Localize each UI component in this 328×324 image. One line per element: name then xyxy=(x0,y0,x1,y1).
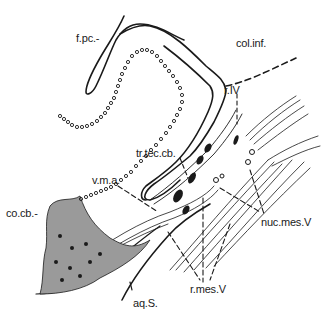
label-r-iv: r.IV xyxy=(224,84,240,96)
label-tr-tec-cb: tr.tec.cb. xyxy=(136,147,176,159)
label-nuc-mes-v: nuc.mes.V xyxy=(261,216,311,228)
label-r-mes-v: r.mes.V xyxy=(190,283,226,295)
anatomical-figure: f.pc.- col.inf. r.IV tr.tec.cb. v.m.a. c… xyxy=(0,0,328,324)
tectum-inner-contour xyxy=(142,46,213,200)
label-co-cb: co.cb.- xyxy=(6,207,38,219)
label-v-m-a: v.m.a. xyxy=(92,174,120,186)
label-aq-s: aq.S. xyxy=(133,297,158,309)
ependymal-dotted-line xyxy=(58,48,183,200)
colinf-boundary xyxy=(226,58,296,86)
label-f-pc: f.pc.- xyxy=(76,32,99,44)
brain-section-drawing xyxy=(0,0,328,324)
label-col-inf: col.inf. xyxy=(236,37,266,49)
